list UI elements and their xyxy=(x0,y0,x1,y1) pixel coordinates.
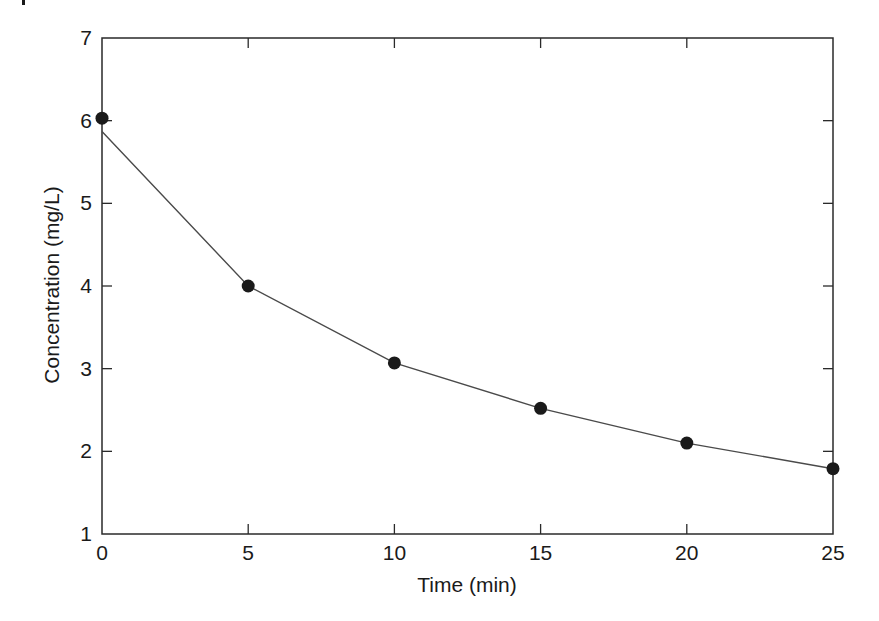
data-point-marker xyxy=(242,280,255,293)
x-tick-label: 10 xyxy=(383,541,406,564)
x-tick-label: 20 xyxy=(675,541,698,564)
y-axis-tick-labels: 1234567 xyxy=(80,26,92,545)
x-tick-label: 25 xyxy=(821,541,844,564)
data-point-marker xyxy=(827,462,840,475)
plot-frame xyxy=(102,38,833,534)
y-tick-label: 1 xyxy=(80,522,92,545)
x-axis-title: Time (min) xyxy=(417,573,517,596)
y-tick-label: 5 xyxy=(80,191,92,214)
fitted-curve-line xyxy=(102,131,833,468)
axis-ticks xyxy=(102,38,833,534)
fitted-curve xyxy=(102,131,833,468)
x-axis-tick-labels: 0510152025 xyxy=(96,541,845,564)
y-tick-label: 2 xyxy=(80,439,92,462)
y-tick-label: 4 xyxy=(80,274,92,297)
y-axis-title: Concentration (mg/L) xyxy=(40,186,63,383)
x-tick-label: 15 xyxy=(529,541,552,564)
plot-border xyxy=(102,38,833,534)
y-tick-label: 3 xyxy=(80,357,92,380)
data-point-marker xyxy=(388,356,401,369)
data-point-marker xyxy=(680,437,693,450)
x-tick-label: 5 xyxy=(242,541,254,564)
data-point-markers xyxy=(96,112,840,476)
x-tick-label: 0 xyxy=(96,541,108,564)
data-point-marker xyxy=(534,402,547,415)
y-tick-label: 7 xyxy=(80,26,92,49)
concentration-time-chart: 0510152025 1234567 Time (min) Concentrat… xyxy=(0,0,879,621)
y-tick-label: 6 xyxy=(80,109,92,132)
data-point-marker xyxy=(96,112,109,125)
